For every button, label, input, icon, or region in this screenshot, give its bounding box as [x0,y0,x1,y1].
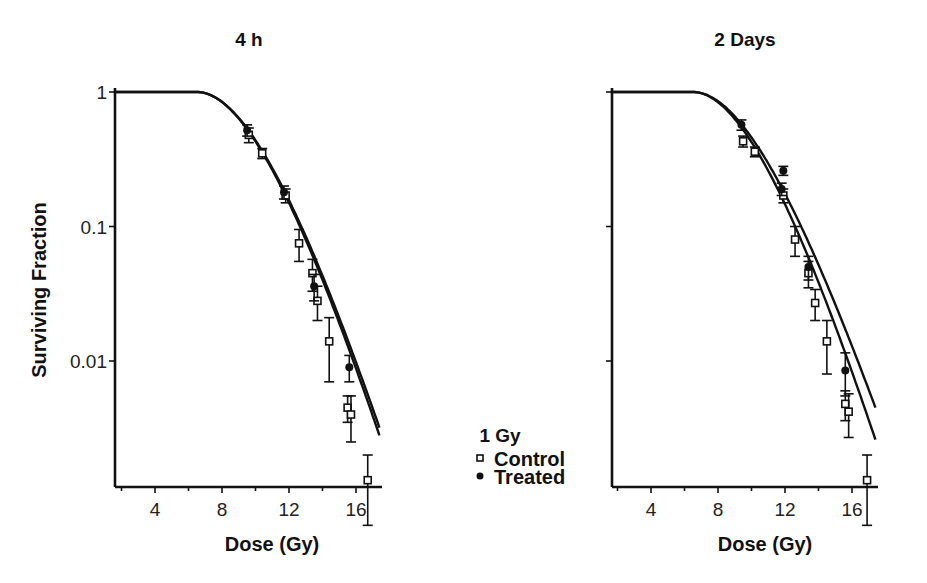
y-tick-label: 0.01 [70,351,107,372]
x-tick-label: 12 [774,499,795,520]
plot-panel-2days: 481216 [606,88,878,525]
fit-curve [115,92,380,435]
x-tick-label: 16 [841,499,862,520]
x-tick-label: 8 [217,499,228,520]
control-point [812,299,819,306]
control-point [842,400,849,407]
treated-point [310,282,318,290]
treated-point [804,263,812,271]
y-tick-label: 1 [96,82,107,103]
panel-title-2days: 2 Days [714,29,775,50]
x-tick-label: 12 [278,499,299,520]
x-tick-label: 16 [345,499,366,520]
control-point [259,150,266,157]
treated-point [280,188,288,196]
control-point [845,408,852,415]
control-point [296,240,303,247]
y-axis-label: Surviving Fraction [28,202,50,378]
control-point [792,236,799,243]
control-point [823,338,830,345]
figure: 4 h 2 Days Surviving Fraction 10.10.0148… [0,0,927,583]
plot-panel-4h: 10.10.01481216 [70,82,382,525]
treated-point [737,121,745,129]
control-point [364,477,371,484]
control-point [740,138,747,145]
x-axis-label-4h: Dose (Gy) [225,533,319,555]
panel-title-4h: 4 h [235,29,262,50]
treated-point [841,366,849,374]
legend-item-treated: Treated [494,466,565,488]
y-tick-label: 0.1 [81,217,107,238]
control-point [326,338,333,345]
x-tick-label: 4 [646,499,657,520]
control-point [344,404,351,411]
control-point [751,148,758,155]
x-axis-label-2days: Dose (Gy) [718,533,812,555]
treated-point [243,126,251,134]
legend-title: 1 Gy [479,425,521,446]
treated-point [779,167,787,175]
x-tick-label: 8 [713,499,724,520]
open-square-marker-icon [477,455,483,461]
control-point [864,477,871,484]
treated-point [778,185,786,193]
filled-circle-marker-icon [477,473,484,480]
treated-point [345,363,353,371]
legend: 1 Gy Control Treated [477,425,566,488]
control-point [347,411,354,418]
x-tick-label: 4 [150,499,161,520]
